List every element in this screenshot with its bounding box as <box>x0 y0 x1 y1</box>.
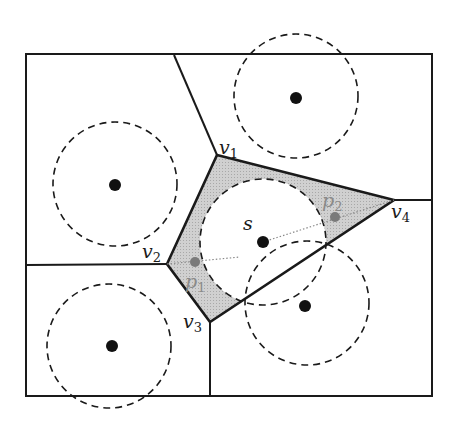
site-bottom-right <box>299 300 311 312</box>
shaded-region <box>0 0 452 435</box>
label-s: s <box>243 212 253 234</box>
edge-top <box>174 55 217 155</box>
label-v1: v1 <box>219 136 238 161</box>
voronoi-diagram: v1 v2 v3 v4 s p1 p2 <box>0 0 452 435</box>
site-left <box>109 179 121 191</box>
site-top-right <box>290 92 302 104</box>
label-v4: v4 <box>391 200 410 225</box>
label-v3: v3 <box>183 310 202 335</box>
voronoi-edges <box>26 55 432 396</box>
edge-left <box>26 264 167 265</box>
site-s <box>257 236 269 248</box>
point-p1 <box>190 257 200 267</box>
buffer-circles <box>47 34 369 408</box>
label-v2: v2 <box>142 240 161 265</box>
bounding-box <box>26 54 432 396</box>
site-bottom-left <box>106 340 118 352</box>
